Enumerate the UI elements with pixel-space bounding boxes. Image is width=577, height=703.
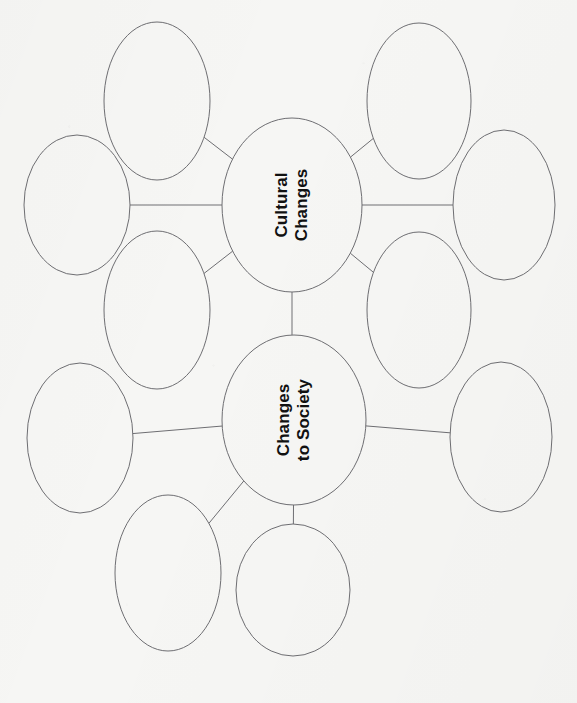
satellite-ellipse-cultural-satellite-4[interactable]	[367, 23, 471, 179]
satellite-ellipse-society-satellite-2[interactable]	[27, 363, 133, 513]
connector-cluster-cultural-changes-to-cultural-satellite-1	[204, 137, 232, 159]
satellite-ellipse-society-satellite-6[interactable]	[236, 524, 350, 656]
diagram-canvas	[0, 0, 577, 703]
satellite-ellipse-cultural-satellite-2[interactable]	[24, 135, 130, 275]
satellite-ellipse-cultural-satellite-5[interactable]	[453, 130, 555, 280]
connector-cluster-cultural-changes-to-cultural-satellite-3	[204, 251, 233, 273]
connector-cluster-cultural-changes-to-cultural-satellite-6	[350, 253, 373, 272]
satellite-ellipse-society-satellite-3[interactable]	[115, 495, 221, 651]
scan-edge-artifact: · · · · ·	[0, 0, 577, 10]
satellite-ellipse-cultural-satellite-3[interactable]	[104, 231, 210, 389]
worksheet-page: · · · · · Cultural ChangesChanges to Soc…	[0, 0, 577, 703]
connector-cluster-changes-to-society-to-society-satellite-5	[366, 426, 450, 433]
satellite-ellipse-society-satellite-5[interactable]	[450, 362, 552, 512]
satellite-ellipse-cultural-satellite-6[interactable]	[367, 232, 471, 388]
satellite-ellipse-cultural-satellite-1[interactable]	[104, 22, 210, 180]
connector-cluster-changes-to-society-to-society-satellite-2	[133, 426, 222, 434]
scan-edge-artifact-text: · · · · ·	[14, 0, 96, 4]
center-ellipse-cluster-cultural-changes[interactable]	[222, 118, 362, 292]
center-ellipse-cluster-changes-to-society[interactable]	[222, 335, 366, 505]
connector-cluster-cultural-changes-to-cultural-satellite-4	[350, 138, 373, 157]
connector-cluster-changes-to-society-to-society-satellite-3	[209, 481, 244, 523]
